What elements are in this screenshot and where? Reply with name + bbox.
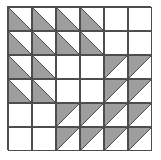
triangle-cell-lower-left-r2c2: [32, 31, 56, 55]
empty-cell-r6c1: [8, 127, 32, 151]
triangle-cell-lower-left-r2c4: [80, 31, 104, 55]
empty-cell-r3c3: [56, 55, 80, 79]
triangle-cell-upper-left-r6c5: [104, 127, 128, 151]
empty-cell-r2c6: [128, 31, 152, 55]
triangle-cell-upper-left-r6c3: [56, 127, 80, 151]
triangle-cell-upper-left-r5c4: [80, 103, 104, 127]
triangle-cell-upper-left-r6c4: [80, 127, 104, 151]
triangle-cell-lower-left-r2c3: [56, 31, 80, 55]
empty-cell-r5c2: [32, 103, 56, 127]
triangle-cell-lower-left-r1c2: [32, 7, 56, 31]
empty-cell-r4c4: [80, 79, 104, 103]
quilt-pattern-figure: [0, 0, 161, 160]
triangle-cell-upper-left-r4c5: [104, 79, 128, 103]
triangle-cell-upper-left-r6c6: [128, 127, 152, 151]
triangle-cell-lower-left-r2c1: [8, 31, 32, 55]
empty-cell-r1c5: [104, 7, 128, 31]
triangle-cell-upper-left-r3c6: [128, 55, 152, 79]
triangle-cell-upper-left-r5c5: [104, 103, 128, 127]
triangle-cell-lower-left-r3c1: [8, 55, 32, 79]
triangle-cell-lower-left-r1c4: [80, 7, 104, 31]
empty-cell-r1c6: [128, 7, 152, 31]
triangle-cell-upper-left-r4c6: [128, 79, 152, 103]
triangle-cell-lower-left-r1c3: [56, 7, 80, 31]
empty-cell-r3c4: [80, 55, 104, 79]
triangle-cell-lower-left-r4c1: [8, 79, 32, 103]
empty-cell-r4c3: [56, 79, 80, 103]
triangle-cell-lower-left-r1c1: [8, 7, 32, 31]
empty-cell-r5c1: [8, 103, 32, 127]
triangle-cell-upper-left-r5c6: [128, 103, 152, 127]
empty-cell-r2c5: [104, 31, 128, 55]
triangle-cell-upper-left-r3c5: [104, 55, 128, 79]
quilt-grid: [7, 6, 151, 150]
triangle-cell-lower-left-r4c2: [32, 79, 56, 103]
triangle-cell-upper-left-r5c3: [56, 103, 80, 127]
empty-cell-r6c2: [32, 127, 56, 151]
triangle-cell-lower-left-r3c2: [32, 55, 56, 79]
